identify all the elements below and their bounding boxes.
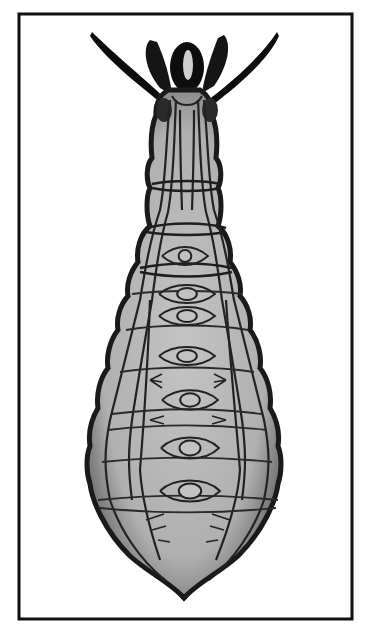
ganglion-node <box>177 288 197 300</box>
ganglion-node <box>179 484 201 499</box>
larva-illustration <box>0 0 369 632</box>
ganglion-node <box>177 310 197 322</box>
ganglion-node <box>180 393 200 407</box>
head-capsule-center <box>183 50 193 80</box>
ganglion-node <box>179 250 192 262</box>
ganglion-node <box>177 350 197 362</box>
ganglion-node <box>180 441 201 456</box>
